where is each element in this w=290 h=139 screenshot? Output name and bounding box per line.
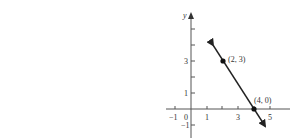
y-axis-label: y [182,11,187,20]
line-graph: y −1 0 1 3 5 3 1 −1 (2, 3) (4, 0) [0,0,290,139]
point-label-2-3: (2, 3) [228,55,246,64]
point-label-4-0: (4, 0) [254,96,272,105]
y-tick-3: 3 [184,57,188,66]
x-tick-5: 5 [268,113,272,122]
y-tick-neg1: −1 [181,121,190,130]
point-2-3 [220,58,225,63]
y-tick-1: 1 [184,89,188,98]
x-tick-3: 3 [236,113,240,122]
x-tick-neg1: −1 [169,113,178,122]
y-axis-arrow-icon [188,12,194,19]
point-4-0 [251,106,256,111]
y-ticks [191,29,195,125]
x-tick-1: 1 [205,113,209,122]
